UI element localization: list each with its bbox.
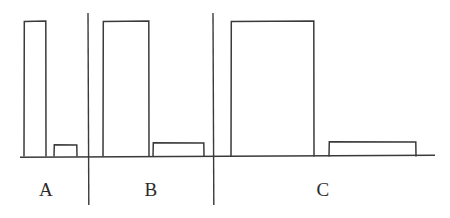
bars-layer bbox=[24, 21, 416, 157]
bar-b-short bbox=[153, 143, 204, 157]
chart-canvas bbox=[0, 0, 450, 218]
bar-c-tall bbox=[231, 21, 314, 157]
group-label-c: C bbox=[316, 179, 329, 201]
group-divider-2 bbox=[213, 13, 214, 205]
bar-chart-figure: ABC bbox=[0, 0, 450, 218]
group-label-a: A bbox=[39, 179, 53, 201]
baseline-axis bbox=[20, 155, 435, 157]
group-dividers-layer bbox=[88, 13, 214, 205]
baseline-axis-layer bbox=[20, 155, 435, 157]
bar-c-short bbox=[329, 142, 416, 157]
bar-b-tall bbox=[103, 21, 149, 157]
group-divider-1 bbox=[88, 13, 89, 205]
bar-a-tall bbox=[24, 21, 46, 157]
bar-a-short bbox=[54, 145, 77, 157]
group-label-b: B bbox=[144, 179, 157, 201]
